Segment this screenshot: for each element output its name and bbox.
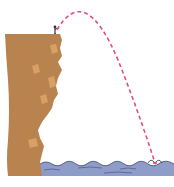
cliff-diver-diagram (0, 0, 174, 187)
trajectory (57, 12, 155, 163)
diver-icon (54, 26, 57, 34)
cliff (5, 34, 62, 176)
